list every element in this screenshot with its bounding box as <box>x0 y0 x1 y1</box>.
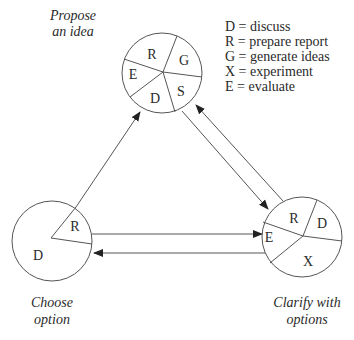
clarify-slice-label: E <box>265 230 274 245</box>
choose-caption: Choose <box>31 295 73 310</box>
propose-slice-label: E <box>129 67 138 82</box>
clarify-slice-label: D <box>317 216 327 231</box>
edge-choose-to-propose <box>76 112 140 207</box>
legend-item: D = discuss <box>225 19 290 34</box>
clarify-slice-label: X <box>303 254 313 269</box>
clarify-caption: Clarify with <box>273 295 340 310</box>
propose-slice-label: S <box>177 84 185 99</box>
choose-slice-label: R <box>70 219 80 234</box>
edge-propose-to-clarify <box>182 111 268 209</box>
propose-caption: an idea <box>52 24 94 39</box>
legend-item: G = generate ideas <box>225 49 330 64</box>
propose-slice-label: R <box>147 47 157 62</box>
node-propose: R G S D E Propose an idea <box>49 8 202 113</box>
legend-item: R = prepare report <box>225 34 328 49</box>
choose-caption: option <box>34 312 70 327</box>
legend-item: E = evaluate <box>225 79 295 94</box>
propose-slice-label: G <box>179 53 189 68</box>
edges <box>76 105 283 253</box>
node-choose: R D Choose option <box>12 201 92 327</box>
legend: D = discuss R = prepare report G = gener… <box>225 19 330 94</box>
cycle-diagram: R G S D E Propose an idea R D Choose opt… <box>0 0 354 340</box>
node-clarify: R D X E Clarify with options <box>262 197 342 327</box>
clarify-caption: options <box>286 312 328 327</box>
edge-clarify-to-propose <box>196 105 283 201</box>
legend-item: X = experiment <box>225 64 313 79</box>
propose-caption: Propose <box>49 8 96 23</box>
choose-slice-label: D <box>33 248 43 263</box>
choose-circle <box>12 201 92 281</box>
propose-slice-label: D <box>150 91 160 106</box>
clarify-slice-label: R <box>289 211 299 226</box>
